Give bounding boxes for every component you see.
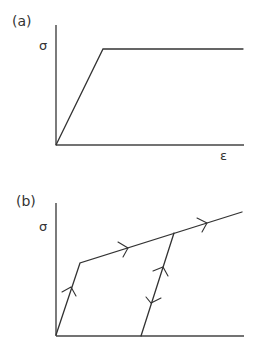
panel-a-x-axis-label: ε (220, 148, 227, 163)
panel-b: (b) σ (16, 193, 244, 336)
panel-b-label: (b) (16, 193, 36, 209)
panel-a: (a) σ ε (12, 13, 244, 163)
stress-strain-diagram: (a) σ ε (b) σ (0, 0, 257, 342)
panel-a-curve (56, 49, 243, 145)
panel-b-loading-curve (56, 212, 242, 335)
panel-b-y-axis-label: σ (39, 219, 47, 234)
panel-a-label: (a) (12, 13, 32, 29)
panel-b-unload-line (141, 233, 174, 336)
panel-a-y-axis-label: σ (39, 38, 47, 53)
